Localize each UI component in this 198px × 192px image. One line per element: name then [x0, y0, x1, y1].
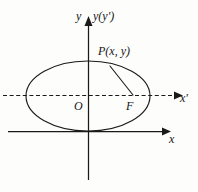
x-prime-axis-label: x'	[180, 92, 188, 104]
point-p-label: P(x, y)	[98, 45, 130, 57]
diagram-canvas	[0, 0, 198, 192]
y-prime-axis-label: y(y')	[93, 10, 114, 22]
x-axis-label: x	[169, 133, 174, 145]
y-axis-arrow-icon	[85, 16, 93, 26]
ellipse-diagram: y y(y') P(x, y) O F x' x	[0, 0, 198, 192]
focus-label: F	[126, 100, 133, 112]
y-axis	[85, 16, 93, 180]
x-prime-axis	[3, 92, 183, 100]
y-axis-label: y	[76, 10, 81, 22]
origin-label: O	[74, 100, 83, 112]
